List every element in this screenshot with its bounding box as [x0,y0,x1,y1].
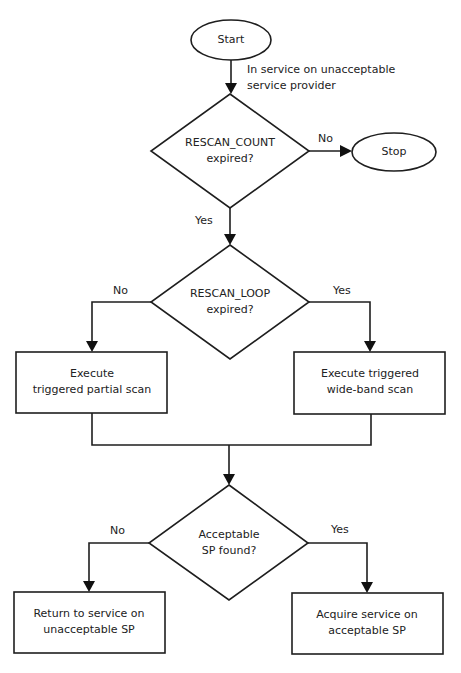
partial-scan-label: Execute triggered partial scan [33,366,152,398]
process-line1: Execute triggered [321,366,419,382]
start-label: Start [218,32,245,48]
decision-line2: SP found? [198,543,259,559]
arrowhead-icon [364,341,376,352]
arrowhead-icon [225,83,237,94]
start-note-line1: In service on unacceptable [247,62,395,78]
count-no-label: No [318,131,333,147]
decision-line2: expired? [185,151,275,167]
decision-line1: RESCAN_COUNT [185,135,275,151]
decision-acceptable-sp-label: Acceptable SP found? [198,527,259,559]
start-note-line2: service provider [247,78,395,94]
edge-loop-yes [309,302,370,343]
decision-rescan-count-label: RESCAN_COUNT expired? [185,135,275,167]
arrowhead-icon [86,341,98,352]
stop-label: Stop [381,144,406,160]
sp-no-label: No [110,523,125,539]
loop-yes-label: Yes [333,283,351,299]
arrowhead-icon [340,145,352,157]
arrowhead-icon [83,581,95,592]
loop-no-label: No [113,283,128,299]
arrowhead-icon [361,582,373,593]
wideband-scan-label: Execute triggered wide-band scan [321,366,419,398]
process-line2: triggered partial scan [33,382,152,398]
acquire-service-label: Acquire service on acceptable SP [316,607,418,639]
edge-sp-no [89,543,149,583]
count-yes-label: Yes [195,213,213,229]
process-line1: Execute [33,366,152,382]
process-line2: wide-band scan [321,382,419,398]
edge-loop-no [92,302,151,343]
process-line1: Return to service on [33,606,144,622]
sp-yes-label: Yes [331,522,349,538]
decision-line1: RESCAN_LOOP [190,286,270,302]
start-note-label: In service on unacceptable service provi… [247,62,395,94]
return-service-label: Return to service on unacceptable SP [33,606,144,638]
process-line2: acceptable SP [316,623,418,639]
decision-line2: expired? [190,302,270,318]
process-line1: Acquire service on [316,607,418,623]
flowchart-canvas [0,0,461,673]
edge-sp-yes [308,543,367,584]
decision-line1: Acceptable [198,527,259,543]
arrowhead-icon [223,474,235,485]
arrowhead-icon [224,234,236,245]
edge-merge [92,413,371,445]
process-line2: unacceptable SP [33,622,144,638]
decision-rescan-loop-label: RESCAN_LOOP expired? [190,286,270,318]
